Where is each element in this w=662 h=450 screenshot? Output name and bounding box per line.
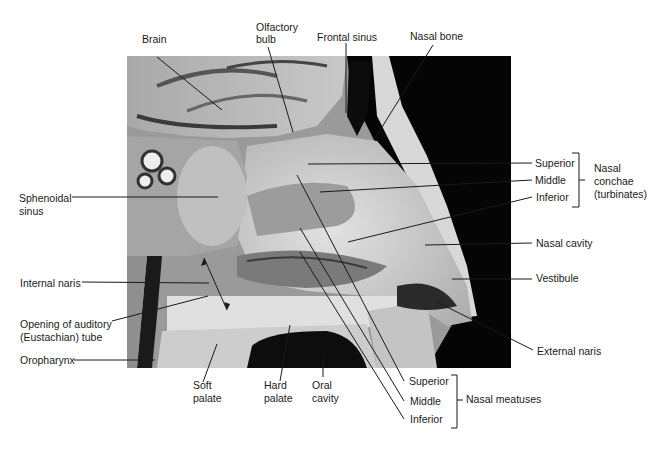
label-olfactory-bulb-line2: bulb: [256, 33, 276, 45]
label-meatus-inferior: Inferior: [410, 413, 443, 425]
label-hard-palate-line1: Hard: [264, 379, 287, 391]
label-brain: Brain: [142, 33, 167, 45]
label-sphenoidal-sinus-line1: Sphenoidal: [19, 192, 72, 204]
label-meatus-middle: Middle: [410, 395, 441, 407]
label-olfactory-bulb-line1: Olfactory: [256, 21, 298, 33]
specimen-photo: [127, 56, 511, 368]
label-conchae-middle: Middle: [535, 174, 566, 186]
label-conchae-superior: Superior: [535, 157, 575, 169]
label-oral-cavity-line2: cavity: [312, 392, 339, 404]
label-soft-palate-line1: Soft: [193, 379, 212, 391]
label-sphenoidal-sinus-line2: sinus: [19, 205, 44, 217]
bracket-meatuses: [451, 375, 457, 428]
label-conchae-group-line1: Nasal: [594, 162, 621, 174]
label-nasal-cavity: Nasal cavity: [536, 237, 593, 249]
label-internal-naris: Internal naris: [20, 277, 81, 289]
label-vestibule: Vestibule: [536, 272, 579, 284]
label-auditory-tube-line2: (Eustachian) tube: [20, 331, 102, 343]
label-oral-cavity-line1: Oral: [312, 379, 332, 391]
label-meatus-group: Nasal meatuses: [466, 393, 541, 405]
label-oropharynx: Oropharynx: [20, 354, 75, 366]
label-frontal-sinus: Frontal sinus: [317, 31, 377, 43]
label-meatus-superior: Superior: [409, 375, 449, 387]
label-auditory-tube-line1: Opening of auditory: [20, 318, 112, 330]
label-conchae-group-line2: conchae: [594, 175, 634, 187]
label-nasal-bone: Nasal bone: [410, 30, 463, 42]
label-conchae-group-line3: (turbinates): [594, 188, 647, 200]
label-external-naris: External naris: [537, 345, 601, 357]
label-conchae-inferior: Inferior: [536, 191, 569, 203]
label-soft-palate-line2: palate: [193, 392, 222, 404]
anatomy-figure: Brain Olfactory bulb Frontal sinus Nasal…: [0, 0, 662, 450]
label-hard-palate-line2: palate: [264, 392, 293, 404]
